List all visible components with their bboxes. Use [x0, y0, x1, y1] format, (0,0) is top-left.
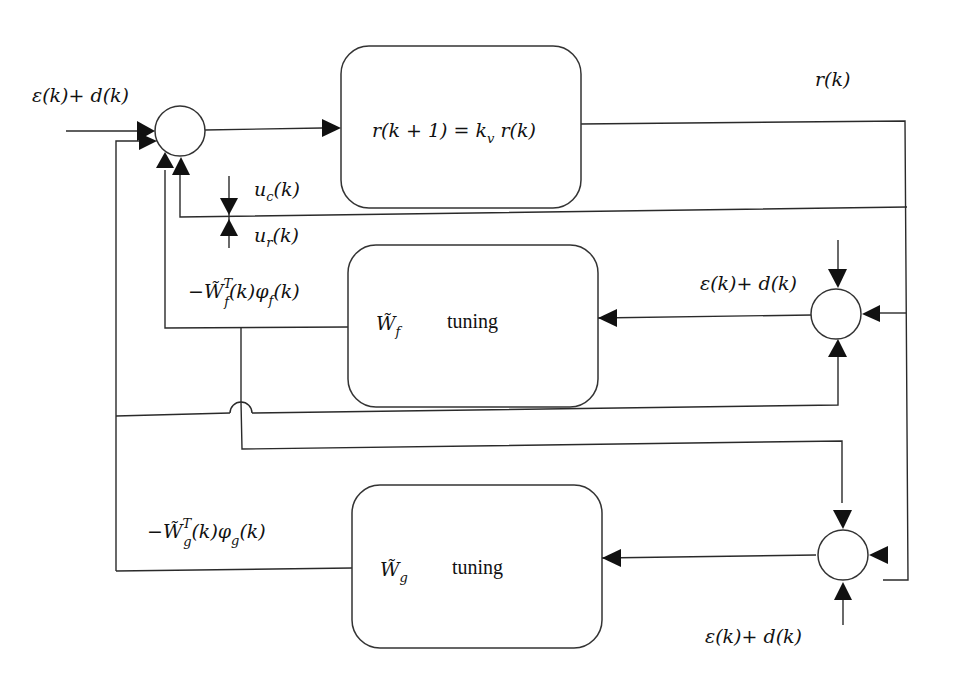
wg-block-symbol-sub: g: [400, 570, 408, 585]
wf-feedback-label: −W̃Tf(k)φf(k): [188, 276, 300, 309]
arrow-up-icon: [834, 582, 852, 600]
wf-feedback-mid: (k)φ: [229, 280, 269, 302]
arrow-up-icon: [172, 157, 190, 175]
wg-feedback-sub2: g: [231, 533, 239, 548]
wf-feedback-pre: −W̃: [188, 280, 225, 302]
arrow-down-icon: [833, 510, 852, 529]
ur-base: u: [254, 224, 266, 246]
uc-base: u: [254, 178, 266, 200]
wg-feedback-sub: g: [183, 534, 191, 549]
arrow-right-icon: [322, 119, 341, 137]
arrow-left-icon: [602, 549, 621, 567]
wg-sum-disturbance-label: ε(k)+ d(k): [705, 625, 802, 647]
input-disturbance-label: ε(k)+ d(k): [32, 84, 129, 106]
output-rk-label: r(k): [815, 68, 850, 90]
wire-wf-sum-to-block: [598, 315, 812, 318]
wf-block-text: tuning: [447, 310, 498, 333]
wire-left-loop: [116, 141, 143, 571]
wire-wg-sum-to-block: [602, 555, 816, 558]
wire-plant-output: [580, 121, 908, 580]
wf-summing-junction: [811, 289, 861, 339]
wf-sum-disturbance-label: ε(k)+ d(k): [700, 272, 797, 294]
ur-tail: (k): [272, 224, 298, 246]
arrow-left-icon: [869, 546, 888, 564]
wg-feedback-mid: (k)φ: [191, 520, 231, 542]
arrow-down-icon: [220, 198, 238, 215]
block-diagram: ε(k)+ d(k) r(k) r(k + 1) = kv r(k) uc(k)…: [0, 0, 958, 695]
wg-block-symbol-base: W̃: [380, 558, 401, 580]
arrow-up-icon: [828, 339, 847, 357]
uc-tail: (k): [274, 178, 300, 200]
wire-left-to-wf-sum: [116, 413, 230, 416]
wg-block-text: tuning: [452, 556, 503, 579]
arrow-down-icon: [828, 269, 847, 288]
wg-feedback-tail: (k): [239, 520, 265, 542]
main-summing-junction: [155, 106, 205, 156]
plant-equation-lhs: r(k + 1) = k: [372, 119, 487, 141]
plant-equation-rhs: r(k): [494, 119, 535, 141]
wire-sum-to-plant: [205, 128, 322, 130]
arrow-right-icon: [139, 133, 157, 150]
ur-label: ur(k): [254, 224, 299, 250]
arrow-left-icon: [598, 309, 617, 327]
wg-summing-junction: [818, 530, 868, 580]
arrow-left-icon: [862, 305, 880, 322]
wire-wg-output: [116, 568, 352, 571]
wg-feedback-pre: −W̃: [147, 520, 184, 542]
wg-feedback-label: −W̃Tg(k)φg(k): [147, 516, 266, 549]
wf-block-symbol-base: W̃: [376, 312, 397, 334]
uc-label: uc(k): [254, 178, 300, 204]
arrow-up-icon: [220, 219, 238, 236]
diagram-canvas: ε(k)+ d(k) r(k) r(k + 1) = kv r(k) uc(k)…: [0, 0, 958, 695]
wf-feedback-tail: (k): [273, 280, 299, 302]
